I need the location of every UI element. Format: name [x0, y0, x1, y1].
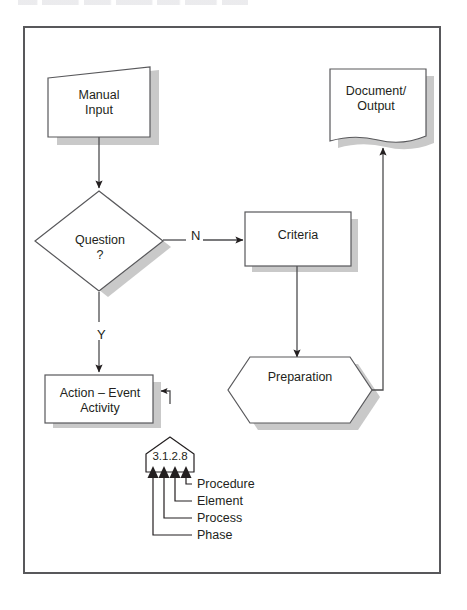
callout-leader-lines — [153, 478, 192, 535]
node-question[interactable] — [35, 191, 163, 291]
node-criteria[interactable] — [245, 212, 351, 266]
node-preparation[interactable] — [228, 357, 372, 423]
node-action-event[interactable] — [45, 375, 153, 423]
node-document[interactable] — [330, 69, 426, 142]
leader-phase — [153, 478, 192, 535]
numbering-callout[interactable] — [146, 437, 194, 535]
edge-callout-to-action — [161, 391, 170, 404]
node-manual-input[interactable] — [48, 67, 150, 137]
leader-procedure — [186, 478, 192, 484]
leader-element — [175, 478, 192, 501]
flowchart-canvas — [0, 0, 467, 610]
edge-preparation-to-document — [368, 148, 383, 390]
